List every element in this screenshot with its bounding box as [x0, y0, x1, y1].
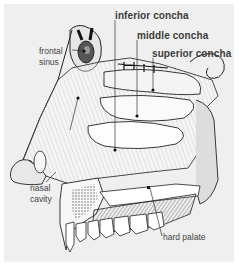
- inferior-concha-shape: [88, 121, 184, 148]
- label-nasal-cavity: nasal cavity: [30, 183, 52, 205]
- label-nasal-cavity-line2: cavity: [30, 194, 52, 205]
- label-frontal-sinus-line1: frontal: [39, 46, 63, 57]
- label-frontal-sinus-line2: sinus: [39, 57, 63, 68]
- label-inferior-concha: inferior concha: [115, 10, 189, 21]
- label-hard-palate: hard palate: [163, 232, 206, 243]
- label-superior-concha: superior concha: [152, 48, 231, 59]
- label-frontal-sinus: frontal sinus: [39, 46, 63, 68]
- label-middle-concha: middle concha: [137, 30, 208, 41]
- label-nasal-cavity-line1: nasal: [30, 183, 52, 194]
